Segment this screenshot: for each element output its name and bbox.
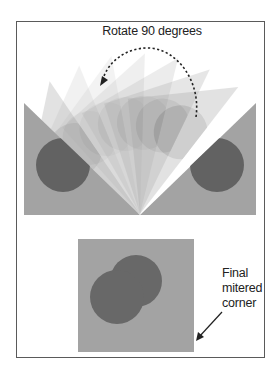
- mitered-corner-diagram: [0, 0, 278, 375]
- caption-line: mitered: [222, 281, 262, 296]
- callout-arrow: [196, 312, 222, 341]
- final-corner-panel: [78, 239, 194, 352]
- caption-line: Final: [222, 266, 262, 281]
- figure-caption: Final mitered corner: [222, 266, 262, 311]
- figure-title: Rotate 90 degrees: [96, 24, 208, 38]
- caption-line: corner: [222, 296, 262, 311]
- final-circle-b: [90, 270, 144, 324]
- top-panel: [24, 54, 256, 215]
